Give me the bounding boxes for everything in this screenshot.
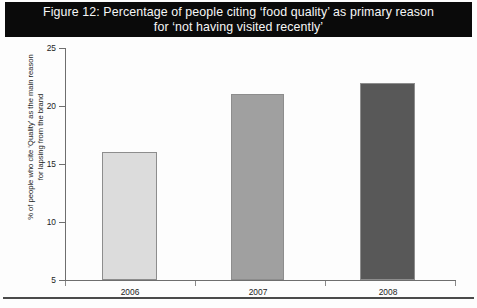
y-tick-25 bbox=[59, 48, 66, 49]
x-axis-label-2006: 2006 bbox=[95, 287, 165, 297]
bar-2007[interactable] bbox=[231, 94, 284, 280]
x-axis-line bbox=[65, 280, 456, 281]
x-tick-2 bbox=[325, 281, 326, 286]
bar-2006[interactable] bbox=[102, 152, 157, 280]
y-tick-label-10: 10 bbox=[34, 217, 56, 227]
y-tick-label-15: 15 bbox=[34, 159, 56, 169]
y-tick-label-20: 20 bbox=[34, 101, 56, 111]
figure-root: Figure 12: Percentage of people citing ‘… bbox=[0, 0, 477, 308]
figure-title-banner: Figure 12: Percentage of people citing ‘… bbox=[5, 2, 472, 37]
bottom-divider bbox=[3, 297, 474, 299]
bar-2008[interactable] bbox=[360, 83, 415, 280]
y-axis-title: % of people who cite ‘Quality’ as the ma… bbox=[21, 25, 51, 250]
y-tick-label-25: 25 bbox=[34, 43, 56, 53]
y-tick-20 bbox=[59, 106, 66, 107]
x-tick-right bbox=[455, 281, 456, 286]
x-tick-left bbox=[65, 281, 66, 286]
x-axis-label-2007: 2007 bbox=[223, 287, 293, 297]
x-tick-1 bbox=[195, 281, 196, 286]
y-axis-title-label: % of people who cite ‘Quality’ as the ma… bbox=[26, 54, 46, 220]
figure-title: Figure 12: Percentage of people citing ‘… bbox=[43, 5, 434, 35]
y-tick-15 bbox=[59, 164, 66, 165]
y-tick-label-5: 5 bbox=[34, 275, 56, 285]
y-tick-10 bbox=[59, 222, 66, 223]
x-axis-label-2008: 2008 bbox=[353, 287, 423, 297]
chart-plot-area: % of people who cite ‘Quality’ as the ma… bbox=[0, 40, 477, 296]
